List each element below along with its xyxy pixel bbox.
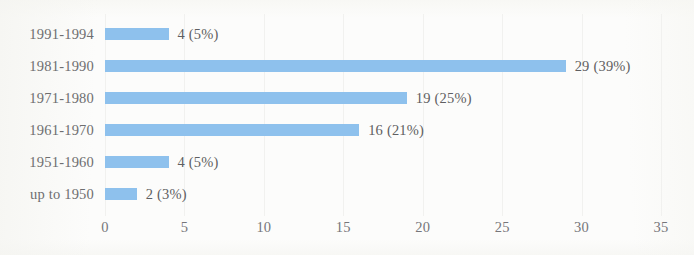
bar — [105, 92, 407, 104]
bar-data-label: 19 (25%) — [416, 90, 472, 107]
category-axis-label: 1971-1980 — [29, 90, 94, 107]
category-axis-label: up to 1950 — [30, 186, 94, 203]
x-axis-tick-label: 20 — [415, 219, 430, 236]
bar — [105, 28, 169, 40]
x-axis-tick-label: 10 — [256, 219, 271, 236]
bar-chart-figure: 1991-19944 (5%)1981-199029 (39%)1971-198… — [0, 0, 694, 255]
bar — [105, 156, 169, 168]
bar-data-label: 29 (39%) — [575, 58, 631, 75]
category-axis-label: 1991-1994 — [29, 26, 94, 43]
x-axis-tick-label: 25 — [495, 219, 510, 236]
plot-area: 1991-19944 (5%)1981-199029 (39%)1971-198… — [105, 14, 661, 216]
chart-category-row: up to 19502 (3%) — [105, 178, 661, 210]
x-axis: 05101520253035 — [105, 219, 661, 243]
x-axis-tick-label: 15 — [336, 219, 351, 236]
x-axis-tick-label: 35 — [654, 219, 669, 236]
bar-data-label: 4 (5%) — [178, 26, 219, 43]
chart-category-row: 1961-197016 (21%) — [105, 114, 661, 146]
bar-data-label: 2 (3%) — [146, 186, 187, 203]
category-axis-label: 1981-1990 — [29, 58, 94, 75]
bar — [105, 60, 566, 72]
chart-category-row: 1951-19604 (5%) — [105, 146, 661, 178]
bar-data-label: 16 (21%) — [368, 122, 424, 139]
bar — [105, 124, 359, 136]
category-axis-label: 1961-1970 — [29, 122, 94, 139]
gridline — [661, 14, 662, 216]
chart-category-row: 1971-198019 (25%) — [105, 82, 661, 114]
x-axis-tick-label: 30 — [574, 219, 589, 236]
chart-category-row: 1981-199029 (39%) — [105, 50, 661, 82]
chart-category-row: 1991-19944 (5%) — [105, 18, 661, 50]
bar-data-label: 4 (5%) — [178, 154, 219, 171]
x-axis-tick-label: 0 — [101, 219, 108, 236]
category-axis-label: 1951-1960 — [29, 154, 94, 171]
x-axis-tick-label: 5 — [181, 219, 188, 236]
bar — [105, 188, 137, 200]
